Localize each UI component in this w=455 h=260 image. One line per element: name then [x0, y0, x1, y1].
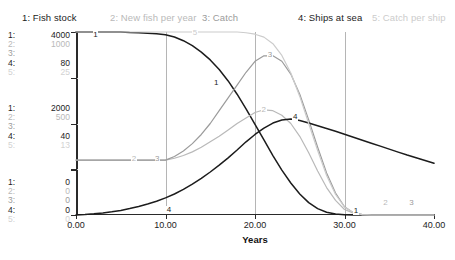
series-marker-4: 4: [166, 206, 171, 214]
chart-screenshot: 1: Fish stock 2: New fish per year 3: Ca…: [0, 0, 455, 260]
legend-item-new-fish-per-year: 2: New fish per year: [110, 12, 196, 23]
legend-item-fish-stock: 1: Fish stock: [22, 12, 77, 23]
legend-item-ships-at-sea: 4: Ships at sea: [298, 12, 362, 23]
legend-item-catch: 3: Catch: [202, 12, 238, 23]
series-marker-3: 3: [155, 155, 160, 163]
curve-ships-at-sea: [76, 119, 434, 215]
legend-item-catch-per-ship: 5: Catch per ship: [372, 12, 446, 23]
y-top-value-5: 25: [61, 68, 70, 77]
series-marker-1: 1: [353, 207, 358, 215]
chart-legend: 1: Fish stock 2: New fish per year 3: Ca…: [0, 12, 455, 28]
series-marker-2: 2: [383, 199, 388, 207]
y-axis-scale-bottom: 1:0 2:0 3:0 4:0 5:0: [0, 178, 72, 224]
y-top-value-2: 1000: [51, 40, 70, 49]
series-marker-3: 3: [409, 199, 414, 207]
x-axis-tick-label: 0.00: [67, 220, 85, 230]
series-marker-1: 1: [93, 31, 98, 39]
x-axis-tick-label: 40.00: [423, 220, 446, 230]
series-marker-2: 2: [131, 155, 136, 163]
y-index-5: 5:: [8, 215, 15, 224]
y-mid-value-2: 500: [56, 113, 70, 122]
series-marker-1: 1: [214, 79, 219, 87]
series-curves: [76, 32, 434, 215]
x-axis-tick-label: 30.00: [333, 220, 356, 230]
y-axis-scale-top: 1:4000 2:1000 3: 4:80 5:25: [0, 31, 72, 77]
y-index-5: 5:: [8, 68, 15, 77]
series-marker-2: 2: [261, 106, 266, 114]
series-marker-3: 3: [267, 51, 272, 59]
curve-fish-stock: [76, 32, 434, 215]
x-axis-tick-label: 20.00: [244, 220, 267, 230]
y-mid-value-5: 13: [61, 141, 70, 150]
x-axis-title: Years: [242, 234, 267, 245]
series-marker-5: 5: [192, 29, 197, 37]
plot-area: 112345234123 0.0010.0020.0030.0040.00 Ye…: [76, 32, 434, 215]
y-axis-scale-middle: 1:2000 2:500 3: 4:40 5:13: [0, 104, 72, 150]
x-axis-tick-label: 10.00: [154, 220, 177, 230]
series-marker-4: 4: [292, 113, 297, 121]
y-index-5: 5:: [8, 141, 15, 150]
